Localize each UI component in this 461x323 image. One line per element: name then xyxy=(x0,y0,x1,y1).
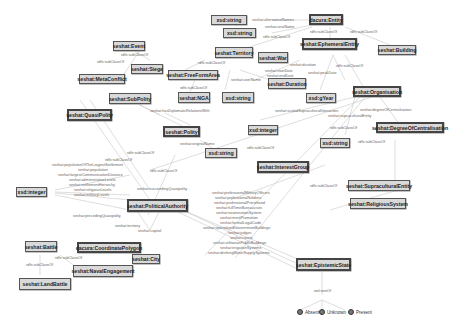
node-seshat-war[interactable]: seshat:War xyxy=(258,52,288,63)
individual-icon xyxy=(297,309,303,315)
edge-label-subclass: rdfs:subClassOf xyxy=(97,60,124,64)
edge-label-subclass: rdfs:subClassOf xyxy=(198,61,225,65)
node-xsd-string-1[interactable]: xsd:string xyxy=(211,15,247,25)
edge-label-peak-date: seshat:peakDate xyxy=(308,71,337,75)
edge-label-original-name: seshat:originalName xyxy=(180,142,215,146)
edge-label-preceding: seshat:precedingQuasipolity xyxy=(73,214,121,218)
individual-unknown[interactable]: Unknown xyxy=(319,309,346,315)
node-seshat-duration[interactable]: seshat:Duration xyxy=(268,78,306,89)
individual-absent[interactable]: Absent xyxy=(297,309,319,315)
node-xsd-integer-left[interactable]: xsd:integer xyxy=(16,187,47,197)
individual-icon xyxy=(348,309,354,315)
edge-label-scaled-supra: seshat:scaledSupraculturalInteraction xyxy=(275,109,338,113)
node-xsd-integer-mid[interactable]: xsd:integer xyxy=(248,125,278,135)
integer-prop-label: seshat:populationOfTheLargestSettlement xyxy=(52,163,123,167)
node-seshat-supraculturalentity[interactable]: seshat:SupraculturalEntity xyxy=(348,180,410,191)
node-seshat-organisation[interactable]: seshat:Organisation xyxy=(353,86,401,97)
node-seshat-landbattle[interactable]: seshat:LandBattle xyxy=(19,278,71,290)
edge-label-capital: seshat:capital xyxy=(138,229,161,233)
integer-prop-label: seshat:administrativeLevels xyxy=(69,178,116,182)
node-xsd-string-4[interactable]: xsd:string xyxy=(205,148,237,158)
edge-label-unix-name: seshat:unixName xyxy=(265,25,294,29)
edge-label-subclass: rdfs:subClassOf xyxy=(150,169,177,173)
node-xsd-gyear[interactable]: xsd:gYear xyxy=(306,93,336,103)
node-xsd-string-2[interactable]: xsd:string xyxy=(223,28,256,38)
edge-label-subclass: rdfs:subClassOf xyxy=(105,158,132,162)
edge-label-subclass: rdfs:subClassOf xyxy=(180,86,207,90)
epistemic-prop-label: seshat:examinationSystem xyxy=(216,211,261,215)
node-seshat-ephemeralentity[interactable]: seshat:EphemeralEntity xyxy=(302,38,357,50)
epistemic-prop-label: seshat:drinkingWaterSupplySystems xyxy=(208,251,270,255)
node-xsd-string-5[interactable]: xsd:string xyxy=(320,138,350,148)
integer-prop-label: seshat:settlementHierarchy xyxy=(69,183,115,187)
node-seshat-degreeofcentralisation[interactable]: seshat:DegreeOfCentralisation xyxy=(376,122,444,133)
node-seshat-territory[interactable]: seshat:Territory xyxy=(215,47,253,58)
edge-label-subclass: rdfs:subClassOf xyxy=(330,126,357,130)
integer-prop-label: seshat:population xyxy=(78,168,108,172)
edge-label-end-date: seshat:endDate xyxy=(267,74,294,78)
integer-prop-label: seshat:religiousLevels xyxy=(74,188,111,192)
node-seshat-freeformarea[interactable]: seshat:FreeFormArea xyxy=(168,70,218,80)
edge-label-subclass: rdfs:subClassOf xyxy=(26,263,53,267)
edge-label-degree-central: seshat:degreeOfCentralisation xyxy=(360,108,411,112)
epistemic-prop-label: seshat:irrigationSystems xyxy=(220,246,261,250)
epistemic-prop-label: seshat:formalLegalCode xyxy=(220,221,261,225)
edge-label-subclass: rdfs:subClassOf xyxy=(263,35,290,39)
node-dacura-coordinatepolygon[interactable]: dacura:CoordinatePolygon xyxy=(77,242,141,253)
edge-label-subclass: rdfs:subClassOf xyxy=(358,140,385,144)
node-seshat-siege[interactable]: seshat:Siege xyxy=(131,64,163,74)
edge-label-start-date: seshat:startDate xyxy=(265,69,293,73)
node-seshat-interestgroup[interactable]: seshat:InterestGroup xyxy=(257,161,309,173)
individual-present[interactable]: Present xyxy=(348,309,372,315)
epistemic-prop-label: seshat:utilitarianPublicBuildings xyxy=(213,241,266,245)
edge-label-subclass: rdfs:subClassOf xyxy=(350,30,377,34)
individual-label: Unknown xyxy=(327,310,346,315)
edge-label-duration: seshat:duration xyxy=(290,63,316,67)
edge-label-supracultural-entity: seshat:supraculturalEntity xyxy=(328,114,371,118)
edge-label-user-name: seshat:userName xyxy=(231,78,261,82)
node-seshat-polity[interactable]: seshat:Polity xyxy=(163,126,200,137)
epistemic-prop-label: seshat:meritPromotion xyxy=(220,216,258,220)
epistemic-prop-label: seshat:specializedGovernmentBuildings xyxy=(203,226,270,230)
edge-label-subclass: rdfs:subClassOf xyxy=(310,30,337,34)
epistemic-prop-label: seshat:courts xyxy=(230,236,253,240)
node-seshat-city[interactable]: seshat:City xyxy=(132,254,160,264)
ontology-diagram: seshat:Event seshat:Siege seshat:MetaCon… xyxy=(0,0,461,323)
edge-label-subclass: rdfs:subClassOf xyxy=(310,184,337,188)
edge-label-subclass: rdfs:subClassOf xyxy=(247,146,274,150)
node-seshat-subpolity[interactable]: seshat:SubPolity xyxy=(109,93,151,104)
node-seshat-building[interactable]: seshat:Building xyxy=(378,45,416,55)
integer-prop-label: seshat:militaryLevels xyxy=(74,193,109,197)
edge-label-territory: seshat:territory xyxy=(115,224,140,228)
node-seshat-navalengagement[interactable]: seshat:NavalEngagement xyxy=(73,265,133,277)
node-dacura-entity[interactable]: dacura:Entity xyxy=(309,14,343,25)
epistemic-prop-label: seshat:judges xyxy=(228,231,251,235)
edge-label-subclass: rdfs:subClassOf xyxy=(55,256,82,260)
node-seshat-politicalauthority[interactable]: seshat:PoliticalAuthority xyxy=(127,199,188,212)
edge-label-subclass: rdfs:subClassOf xyxy=(127,151,154,155)
epistemic-prop-label: seshat:professionalSoldiers xyxy=(215,196,261,200)
edge-label-subclass: rdfs:subClassOf xyxy=(121,53,148,57)
edge-label-alt-names: seshat:alternativeNames xyxy=(252,18,294,22)
node-seshat-epistemicstate[interactable]: seshat:EpistemicState xyxy=(296,258,351,271)
individual-icon xyxy=(319,309,325,315)
node-seshat-religioussystem[interactable]: seshat:ReligiousSystem xyxy=(350,198,406,209)
epistemic-prop-label: seshat:professionalPriesthood xyxy=(214,201,265,205)
edge-label-succeeding: seshat:succeedingQuasipolity xyxy=(137,187,187,191)
node-seshat-metaconflict[interactable]: seshat:MetaConflict xyxy=(79,74,125,84)
node-seshat-nga[interactable]: seshat:NGA xyxy=(178,92,210,103)
individual-label: Present xyxy=(356,310,372,315)
node-seshat-event[interactable]: seshat:Event xyxy=(113,41,145,51)
node-seshat-quasipolity[interactable]: seshat:QuasiPolity xyxy=(67,109,112,121)
edge-label-one-of: owl:oneOf xyxy=(314,289,331,293)
node-xsd-string-3[interactable]: xsd:string xyxy=(222,92,254,103)
epistemic-prop-label: seshat:fullTimeBureaucrats xyxy=(216,206,262,210)
individual-label: Absent xyxy=(305,310,319,315)
edge-label-subclass: rdfs:subClassOf xyxy=(336,64,363,68)
edge-label-diplomatic: seshat:hasDiplomaticRelationsWith xyxy=(150,109,210,113)
node-seshat-battle[interactable]: seshat:Battle xyxy=(25,241,57,252)
integer-prop-label: seshat:largestCommunicationDistance xyxy=(58,173,123,177)
epistemic-prop-label: seshat:professionalMilitaryOfficers xyxy=(212,191,270,195)
